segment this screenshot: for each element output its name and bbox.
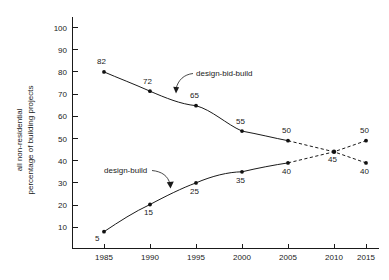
- point-label-db-2005: 40: [282, 167, 291, 176]
- point-label-db-1995: 25: [190, 187, 199, 196]
- chart-container: all non-residential percentage of buildi…: [0, 0, 389, 280]
- y-tick-label-60: 60: [58, 112, 67, 121]
- y-tick-label-10: 10: [58, 223, 67, 232]
- annotation-design-bid-build-arrow-icon: [173, 87, 179, 94]
- x-tick-label-2005: 2005: [279, 253, 297, 262]
- y-axis-title-line2: percentage of building projects: [26, 86, 35, 195]
- annotation-design-build-text: design-build: [104, 166, 147, 175]
- y-tick-label-80: 80: [58, 68, 67, 77]
- y-tick-label-30: 30: [58, 179, 67, 188]
- y-tick-label-50: 50: [58, 135, 67, 144]
- x-tick-label-2010: 2010: [325, 253, 343, 262]
- point-label-dbb-2005: 50: [282, 126, 291, 135]
- y-tick-label-70: 70: [58, 90, 67, 99]
- point-label-dbb-1995: 65: [190, 91, 199, 100]
- x-tick-label-1990: 1990: [141, 253, 159, 262]
- point-label-db-1990: 15: [144, 208, 153, 217]
- point-label-dbb-1990: 72: [143, 77, 152, 86]
- point-label-db-2015: 50: [360, 126, 369, 135]
- x-axis-ticks: [104, 244, 366, 249]
- y-tick-label-90: 90: [58, 46, 67, 55]
- annotation-design-bid-build-leader: [176, 74, 193, 90]
- point-label-crossing-2010: 45: [328, 155, 337, 164]
- annotation-design-bid-build-text: design-bid-build: [196, 69, 252, 78]
- point-label-dbb-1985: 82: [97, 57, 106, 66]
- point-label-dbb-2015: 40: [360, 167, 369, 176]
- annotation-design-build-arrow-icon: [167, 182, 174, 189]
- y-axis-ticks: [73, 28, 78, 228]
- x-tick-label-1985: 1985: [95, 253, 113, 262]
- y-tick-label-40: 40: [58, 157, 67, 166]
- annotation-design-build-leader: [152, 171, 170, 185]
- y-axis-title-line1: all non-residential: [15, 108, 24, 171]
- line-chart: all non-residential percentage of buildi…: [0, 0, 389, 280]
- point-label-dbb-2000: 55: [236, 117, 245, 126]
- x-tick-label-2000: 2000: [233, 253, 251, 262]
- y-tick-label-20: 20: [58, 201, 67, 210]
- y-tick-label-100: 100: [54, 24, 68, 33]
- x-tick-label-2015: 2015: [357, 253, 375, 262]
- crossing-point-marker: [332, 150, 336, 154]
- point-label-db-1985: 5: [95, 234, 100, 243]
- axis-lines: [73, 17, 380, 249]
- x-tick-label-1995: 1995: [187, 253, 205, 262]
- point-label-db-2000: 35: [236, 176, 245, 185]
